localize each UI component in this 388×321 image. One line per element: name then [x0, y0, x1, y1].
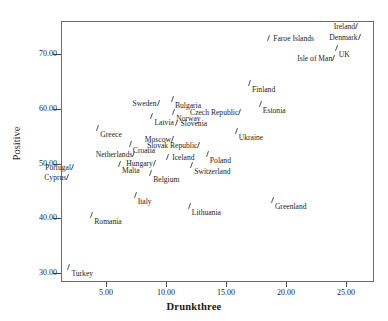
point-label: Finland [252, 85, 275, 94]
x-tick-mark [226, 282, 227, 287]
point-label: Switzerland [194, 167, 230, 176]
point-marker-icon [188, 203, 191, 209]
point-label: Czech Republic [190, 108, 238, 117]
point-marker-icon [172, 109, 175, 115]
point-label: UK [339, 50, 350, 59]
y-axis-title: Positive [11, 84, 22, 204]
y-tick-label: 30.00 [39, 268, 57, 277]
point-marker-icon [150, 113, 153, 119]
point-marker-icon [235, 128, 238, 134]
x-tick-label: 5.00 [99, 288, 113, 297]
point-label: Greenland [275, 202, 307, 211]
point-marker-icon [259, 101, 262, 107]
point-marker-icon [238, 109, 241, 115]
point-label: Denmark [329, 33, 357, 42]
point-marker-icon [166, 154, 169, 160]
point-marker-icon [71, 164, 74, 170]
point-label: Greece [100, 130, 122, 139]
point-label: Lithuania [192, 208, 221, 217]
point-label: Iceland [172, 153, 194, 162]
plot-frame: IrelandDenmarkFaroe IslandsUKIsle of Man… [61, 21, 374, 282]
scatter-plot-figure: 70.0060.0050.0040.0030.00 5.0010.0015.00… [0, 0, 388, 321]
point-label: Sweden [132, 99, 156, 108]
point-label: Italy [138, 197, 152, 206]
point-label: Isle of Man [297, 54, 332, 63]
point-marker-icon [332, 55, 335, 61]
point-label: Portugal [45, 163, 71, 172]
point-label: Estonia [263, 106, 286, 115]
point-marker-icon [66, 174, 69, 180]
y-tick-label: 40.00 [39, 213, 57, 222]
point-label: Ireland [334, 22, 356, 31]
point-label: Cyprus [44, 173, 66, 182]
point-label: Malta [122, 166, 140, 175]
point-marker-icon [129, 141, 132, 147]
point-label: Romania [94, 217, 121, 226]
point-marker-icon [190, 162, 193, 168]
x-tick-mark [286, 282, 287, 287]
point-label: Poland [210, 156, 231, 165]
plot-area: IrelandDenmarkFaroe IslandsUKIsle of Man… [62, 22, 373, 281]
x-tick-mark [106, 282, 107, 287]
point-marker-icon [153, 160, 156, 166]
point-label: Netherlands [96, 150, 133, 159]
y-tick-label: 60.00 [39, 104, 57, 113]
point-label: Faroe Islands [273, 34, 314, 43]
x-tick-mark [346, 282, 347, 287]
point-marker-icon [171, 96, 174, 102]
point-label: Slovenia [181, 119, 208, 128]
point-marker-icon [335, 45, 338, 51]
x-tick-label: 25.00 [337, 288, 355, 297]
point-marker-icon [149, 170, 152, 176]
point-marker-icon [248, 80, 251, 86]
x-tick-label: 20.00 [277, 288, 295, 297]
point-marker-icon [67, 264, 70, 270]
point-label: Slovak Republic [147, 141, 197, 150]
point-marker-icon [90, 212, 93, 218]
point-label: Ukraine [239, 133, 263, 142]
point-marker-icon [134, 192, 137, 198]
point-marker-icon [197, 142, 200, 148]
y-tick-label: 70.00 [39, 49, 57, 58]
point-marker-icon [355, 23, 358, 29]
point-marker-icon [271, 197, 274, 203]
x-axis-title: Drunkthree [0, 301, 388, 312]
point-label: Latvia [154, 118, 173, 127]
x-tick-label: 10.00 [157, 288, 175, 297]
point-marker-icon [96, 125, 99, 131]
x-tick-label: 15.00 [217, 288, 235, 297]
point-marker-icon [118, 161, 121, 167]
point-label: Turkey [71, 269, 93, 278]
point-marker-icon [267, 35, 270, 41]
point-label: Belgium [153, 175, 179, 184]
x-tick-mark [166, 282, 167, 287]
point-marker-icon [206, 151, 209, 157]
